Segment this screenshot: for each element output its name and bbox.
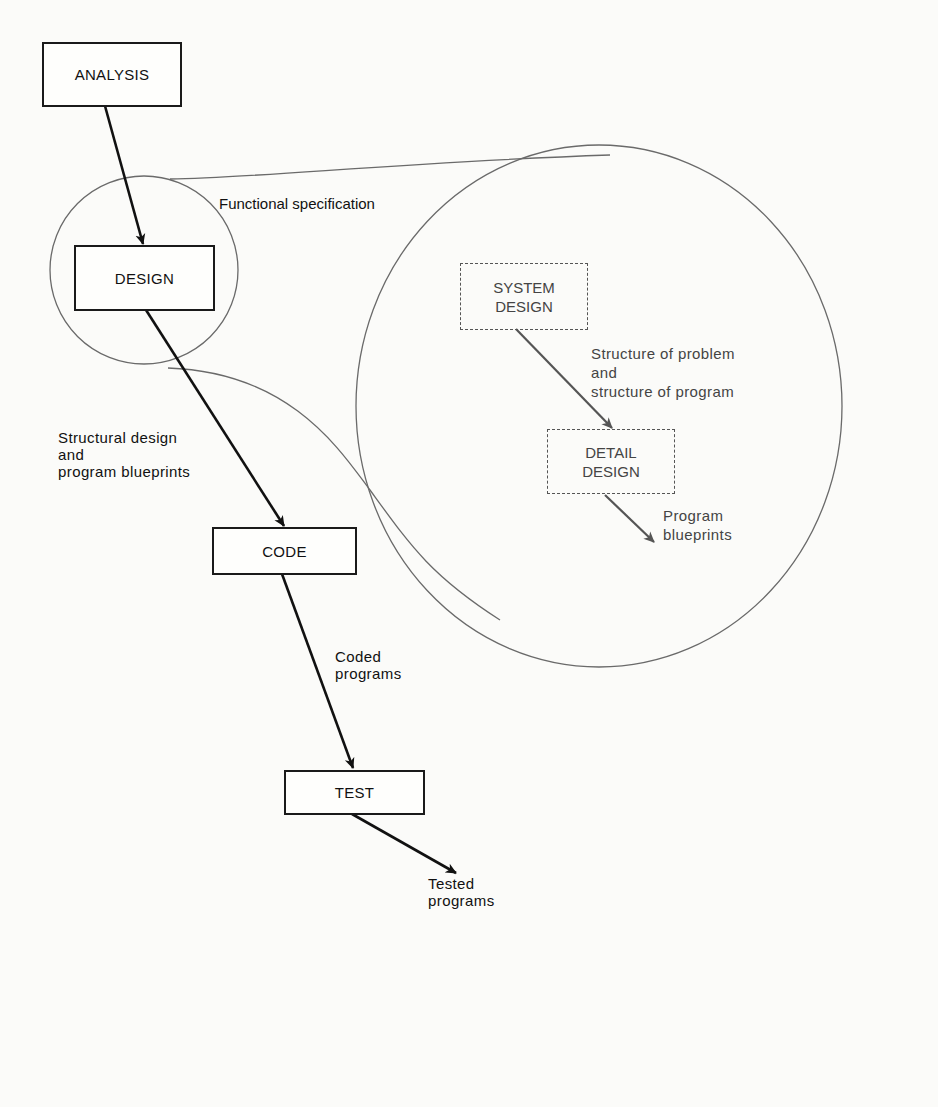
magnify-lower-connector (168, 368, 500, 620)
code-box: CODE (212, 527, 357, 575)
label-functional-specification: Functional specification (219, 195, 375, 212)
diagram-canvas (0, 0, 938, 1107)
analysis-box: ANALYSIS (42, 42, 182, 107)
label-coded-programs: Coded programs (335, 648, 402, 682)
arrow-design-to-code (146, 310, 284, 526)
detail-design-box: DETAIL DESIGN (547, 429, 675, 494)
design-detail-circle (356, 145, 842, 667)
label-structural-design: Structural design and program blueprints (58, 429, 190, 480)
label-structure-of-problem: Structure of problem and structure of pr… (591, 344, 735, 401)
design-box: DESIGN (74, 245, 215, 311)
arrow-analysis-to-design (105, 106, 143, 244)
test-box: TEST (284, 770, 425, 815)
label-tested-programs: Tested programs (428, 875, 495, 909)
magnify-upper-connector (170, 155, 610, 179)
label-program-blueprints: Program blueprints (663, 506, 732, 544)
system-design-box: SYSTEM DESIGN (460, 263, 588, 330)
arrow-detail-output (605, 495, 654, 542)
arrow-test-output (352, 814, 456, 873)
